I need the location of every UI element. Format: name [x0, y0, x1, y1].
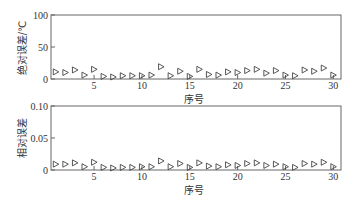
triangle-marker-icon — [53, 69, 59, 75]
y-tick-label: 0.10 — [31, 101, 49, 112]
triangle-marker-icon — [53, 161, 59, 167]
y-tick-label: 0 — [43, 74, 48, 85]
triangle-marker-icon — [312, 161, 318, 167]
triangle-marker-icon — [82, 164, 88, 170]
triangle-marker-icon — [82, 72, 88, 78]
triangle-marker-icon — [101, 164, 107, 170]
triangle-marker-icon — [216, 72, 222, 78]
x-axis-label: 序号 — [184, 93, 204, 105]
triangle-marker-icon — [206, 163, 212, 169]
x-tick-label: 25 — [280, 171, 290, 182]
triangle-marker-icon — [245, 68, 251, 74]
triangle-marker-icon — [159, 64, 165, 70]
triangle-marker-icon — [101, 73, 107, 79]
triangle-marker-icon — [92, 66, 98, 72]
x-tick-label: 30 — [328, 171, 338, 182]
absolute-error-chart: 050100 51015202530 绝对误差/℃ 序号 — [16, 10, 341, 106]
triangle-marker-icon — [120, 164, 126, 170]
triangle-marker-icon — [273, 161, 279, 167]
x-tick-label: 20 — [233, 80, 243, 91]
y-tick-label: 50 — [38, 42, 48, 53]
triangle-marker-icon — [264, 162, 270, 168]
x-tick-label: 15 — [185, 80, 195, 91]
x-tick-label: 20 — [233, 171, 243, 182]
triangle-marker-icon — [302, 67, 308, 73]
triangle-marker-icon — [168, 164, 174, 170]
triangle-marker-icon — [130, 73, 136, 79]
triangle-marker-icon — [72, 160, 78, 166]
x-axis-label: 序号 — [184, 184, 204, 196]
y-axis-label: 绝对误差/℃ — [16, 21, 28, 76]
triangle-marker-icon — [264, 70, 270, 76]
triangle-marker-icon — [226, 69, 232, 75]
y-tick-label: 100 — [33, 10, 48, 21]
triangle-marker-icon — [178, 68, 184, 74]
y-tick-label: 0.05 — [31, 133, 49, 144]
triangle-marker-icon — [130, 164, 136, 170]
triangle-marker-icon — [197, 160, 203, 166]
triangle-marker-icon — [178, 161, 184, 167]
triangle-marker-icon — [226, 162, 232, 168]
triangle-marker-icon — [293, 73, 299, 79]
relative-error-chart: 00.050.10 51015202530 相对误差 序号 — [16, 101, 341, 197]
x-tick-label: 5 — [92, 171, 97, 182]
x-tick-label: 5 — [92, 80, 97, 91]
triangle-marker-icon — [63, 70, 69, 76]
chart-canvas: 050100 51015202530 绝对误差/℃ 序号 00.050.10 5… — [0, 0, 354, 205]
triangle-marker-icon — [312, 68, 318, 74]
x-tick-label: 10 — [137, 171, 147, 182]
triangle-marker-icon — [63, 161, 69, 167]
x-tick-label: 10 — [137, 80, 147, 91]
triangle-marker-icon — [273, 68, 279, 74]
y-tick-label: 0 — [43, 165, 48, 176]
triangle-marker-icon — [120, 73, 126, 79]
triangle-marker-icon — [245, 161, 251, 167]
x-tick-label: 15 — [185, 171, 195, 182]
triangle-marker-icon — [72, 67, 78, 73]
x-tick-label: 30 — [328, 80, 338, 91]
plot-frame — [51, 15, 341, 79]
triangle-marker-icon — [293, 164, 299, 170]
triangle-marker-icon — [235, 70, 241, 76]
triangle-marker-icon — [216, 164, 222, 170]
triangle-marker-icon — [206, 71, 212, 77]
triangle-marker-icon — [92, 159, 98, 165]
triangle-marker-icon — [197, 66, 203, 72]
triangle-marker-icon — [254, 66, 260, 72]
triangle-marker-icon — [159, 158, 165, 164]
triangle-marker-icon — [149, 164, 155, 170]
triangle-marker-icon — [321, 159, 327, 165]
triangle-marker-icon — [254, 160, 260, 166]
x-tick-label: 25 — [280, 80, 290, 91]
triangle-marker-icon — [302, 161, 308, 167]
y-axis-label: 相对误差 — [16, 118, 28, 158]
triangle-marker-icon — [168, 73, 174, 79]
triangle-marker-icon — [321, 65, 327, 71]
triangle-marker-icon — [149, 72, 155, 78]
